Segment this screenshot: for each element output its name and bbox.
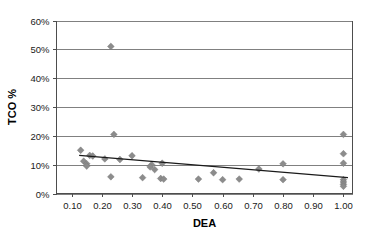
x-tick-label: 0.20 xyxy=(93,200,112,211)
data-point xyxy=(280,160,287,167)
x-tick-label: 0.90 xyxy=(304,200,323,211)
data-points xyxy=(77,43,347,190)
data-point xyxy=(219,176,226,183)
x-tick-label: 0.10 xyxy=(63,200,82,211)
y-tick-label: 30% xyxy=(30,102,50,113)
data-point xyxy=(107,43,114,50)
data-point xyxy=(195,176,202,183)
x-tick-label: 0.40 xyxy=(153,200,172,211)
x-axis-title: DEA xyxy=(193,217,216,229)
data-point xyxy=(139,174,146,181)
data-point xyxy=(255,166,262,173)
y-tick-label: 0% xyxy=(36,189,50,200)
gridlines xyxy=(57,22,353,195)
y-tick-label: 50% xyxy=(30,44,50,55)
data-point xyxy=(280,176,287,183)
x-axis-ticks: 0.100.200.300.400.500.600.700.800.901.00 xyxy=(63,194,353,211)
y-axis-title: TCO % xyxy=(6,89,18,125)
x-tick-label: 0.60 xyxy=(214,200,233,211)
x-tick-label: 0.30 xyxy=(123,200,142,211)
data-point xyxy=(340,150,347,157)
data-point xyxy=(129,152,136,159)
data-point xyxy=(236,176,243,183)
data-point xyxy=(77,147,84,154)
x-tick-label: 0.70 xyxy=(244,200,263,211)
x-tick-label: 1.00 xyxy=(334,200,353,211)
y-tick-label: 60% xyxy=(30,16,50,27)
data-point xyxy=(210,169,217,176)
y-tick-label: 20% xyxy=(30,131,50,142)
chart-canvas: 0%10%20%30%40%50%60%0.100.200.300.400.50… xyxy=(0,0,372,241)
scatter-chart: 0%10%20%30%40%50%60%0.100.200.300.400.50… xyxy=(0,0,372,241)
data-point xyxy=(107,173,114,180)
x-tick-label: 0.50 xyxy=(183,200,202,211)
y-axis-ticks: 0%10%20%30%40%50%60% xyxy=(30,16,56,200)
y-tick-label: 40% xyxy=(30,73,50,84)
data-point xyxy=(101,156,108,163)
y-tick-label: 10% xyxy=(30,160,50,171)
x-tick-label: 0.80 xyxy=(274,200,293,211)
